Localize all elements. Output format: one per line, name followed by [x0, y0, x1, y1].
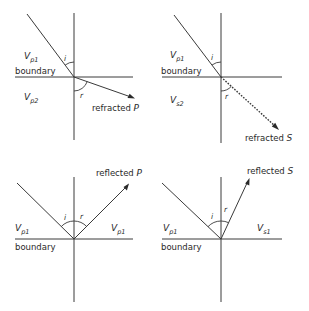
arrowhead-icon: [128, 94, 136, 99]
refraction-angle-arc: [74, 82, 87, 91]
arrowhead-icon: [124, 184, 130, 191]
right-layer-velocity: Vp1: [111, 223, 125, 236]
refraction-angle-arc: [221, 86, 231, 91]
incidence-angle-arc: [208, 221, 221, 227]
incidence-angle-label: i: [64, 213, 67, 222]
refraction-angle-label: r: [225, 92, 229, 101]
left-layer-velocity: Vp1: [15, 223, 29, 236]
refracted-ray: [221, 77, 275, 126]
upper-layer-velocity: Vp1: [170, 50, 184, 63]
boundary-label: boundary: [161, 242, 202, 252]
reflection-angle-label: r: [224, 205, 228, 214]
reflection-angle-arc: [74, 221, 87, 227]
lower-layer-velocity: Vp2: [24, 92, 38, 105]
right-layer-velocity: Vs1: [257, 223, 271, 236]
reflection-angle-label: r: [80, 212, 84, 221]
boundary-label: boundary: [161, 66, 202, 76]
ray-label: refracted P: [92, 103, 140, 113]
left-layer-velocity: Vp1: [163, 223, 177, 236]
refraction-angle-label: r: [80, 91, 84, 100]
reflection-angle-arc: [221, 221, 229, 223]
incidence-angle-label: i: [64, 54, 67, 63]
ray-label: refracted S: [245, 133, 293, 143]
ray-label: reflected P: [96, 168, 142, 178]
incidence-angle-arc: [65, 62, 74, 65]
boundary-label: boundary: [15, 66, 56, 76]
arrowhead-icon: [245, 178, 249, 185]
panel-refracted-s: i r Vp1 boundary Vs2 refracted S: [161, 13, 293, 143]
lower-layer-velocity: Vs2: [170, 95, 184, 108]
panel-reflected-s: i r Vp1 Vs1 boundary reflected S: [161, 166, 293, 302]
upper-layer-velocity: Vp1: [24, 51, 38, 64]
boundary-label: boundary: [15, 242, 56, 252]
incidence-angle-label: i: [211, 53, 214, 62]
incidence-angle-label: i: [211, 212, 214, 221]
panel-refracted-p: i r Vp1 boundary Vp2 refracted P: [15, 13, 140, 140]
ray-label: reflected S: [247, 166, 293, 176]
incidence-angle-arc: [212, 62, 221, 65]
wave-refraction-reflection-diagram: i r Vp1 boundary Vp2 refracted P i r Vp1…: [0, 0, 309, 311]
panel-reflected-p: i r Vp1 Vp1 boundary reflected P: [15, 168, 142, 302]
